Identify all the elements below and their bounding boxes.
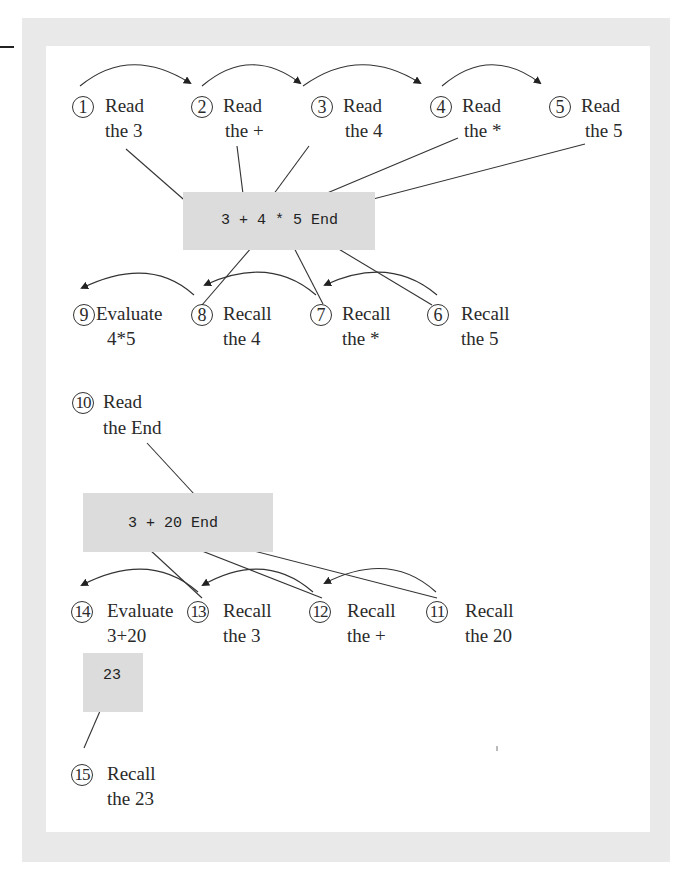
expression-box-1: 3 + 4 * 5 End: [183, 192, 375, 250]
step-2-target: the +: [225, 119, 264, 143]
stray-mark: [496, 746, 498, 751]
step-14-target: 3+20: [107, 624, 146, 648]
step-4-target: the *: [464, 119, 501, 143]
expression-text: 23: [103, 667, 121, 684]
step-3-action: Read: [343, 94, 382, 118]
step-1-number: 1: [72, 96, 94, 118]
step-5-number: 5: [549, 96, 571, 118]
step-8-number: 8: [191, 304, 213, 326]
step-6-target: the 5: [461, 327, 498, 351]
expression-text: 3 + 4 * 5 End: [221, 212, 338, 229]
step-5-action: Read: [581, 94, 620, 118]
step-12-action: Recall: [347, 599, 396, 623]
step-13-action: Recall: [223, 599, 272, 623]
step-1-action: Read: [105, 94, 144, 118]
step-2-number: 2: [191, 96, 213, 118]
expression-box-2: 3 + 20 End: [83, 493, 273, 552]
step-4-action: Read: [462, 94, 501, 118]
step-7-target: the *: [342, 327, 379, 351]
step-4-number: 4: [430, 96, 452, 118]
expression-box-3: 23: [83, 653, 143, 712]
step-1-target: the 3: [105, 119, 142, 143]
step-14-action: Evaluate: [107, 599, 173, 623]
step-2-action: Read: [223, 94, 262, 118]
step-15-action: Recall: [107, 762, 156, 786]
step-8-action: Recall: [223, 302, 272, 326]
step-6-number: 6: [427, 304, 449, 326]
step-6-action: Recall: [461, 302, 510, 326]
step-10-number: 10: [72, 392, 94, 414]
step-13-number: 13: [187, 601, 209, 623]
step-12-number: 12: [309, 601, 331, 623]
step-3-target: the 4: [345, 119, 382, 143]
step-15-number: 15: [71, 764, 93, 786]
step-14-number: 14: [71, 601, 93, 623]
step-7-action: Recall: [342, 302, 391, 326]
step-11-number: 11: [426, 601, 448, 623]
expression-text: 3 + 20 End: [128, 515, 218, 532]
step-11-target: the 20: [465, 624, 512, 648]
step-10-action: Read: [103, 390, 142, 414]
step-5-target: the 5: [585, 119, 622, 143]
step-7-number: 7: [310, 304, 332, 326]
step-10-target: the End: [103, 416, 162, 440]
step-12-target: the +: [347, 624, 386, 648]
step-11-action: Recall: [465, 599, 514, 623]
step-3-number: 3: [311, 96, 333, 118]
step-9-number: 9: [73, 304, 95, 326]
step-9-action: Evaluate: [96, 302, 162, 326]
step-15-target: the 23: [107, 787, 154, 811]
step-9-target: 4*5: [107, 327, 136, 351]
step-13-target: the 3: [223, 624, 260, 648]
step-8-target: the 4: [223, 327, 260, 351]
